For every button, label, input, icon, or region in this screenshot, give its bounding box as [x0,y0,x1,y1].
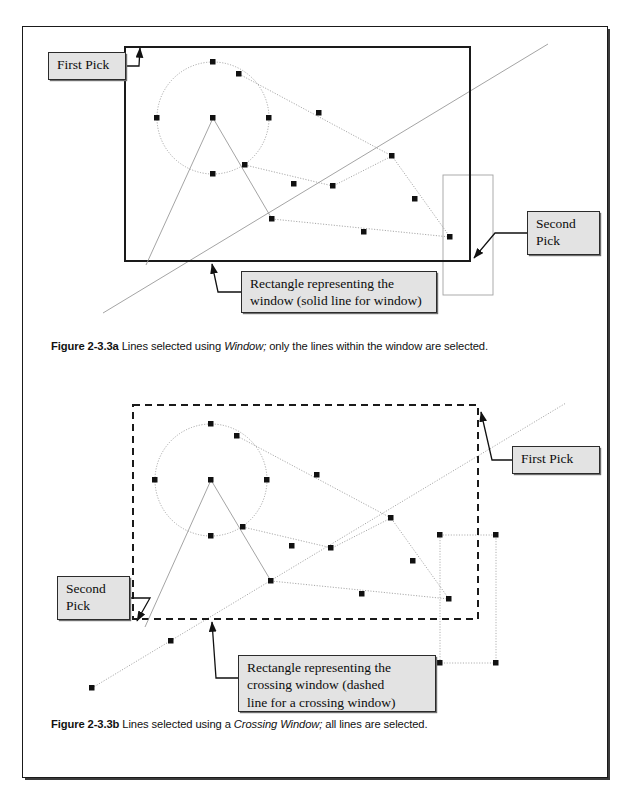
figure-caption-a-text2: only the lines within the window are sel… [266,340,488,352]
callout-second-pick-a: Second Pick [527,211,600,255]
callout-window-note-a: Rectangle representing the window (solid… [241,271,437,313]
polyline-middle-b [243,518,391,548]
figure-caption-a-emphasis: Window; [224,340,266,352]
callout-first-pick-a: First Pick [48,52,126,80]
triangle-entity-a [146,118,272,265]
leader-window-note-a [212,264,241,292]
callout-second-pick-b: Second Pick [57,576,130,620]
polyline-upper-b [237,436,449,599]
figure-caption-b-label: Figure 2-3.3b [51,718,119,730]
leader-first-pick-a [126,48,140,66]
grip-handles-b [89,421,499,691]
triangle-entity-b [145,480,271,627]
figure-b-geometry [89,403,566,691]
figure-caption-a: Figure 2-3.3a Lines selected using Windo… [51,340,488,352]
callout-first-pick-b: First Pick [512,446,600,474]
figure-caption-b-emphasis: Crossing Window; [234,718,322,730]
figure-caption-a-label: Figure 2-3.3a [51,340,119,352]
leader-first-pick-b [481,412,512,460]
figure-caption-a-text1: Lines selected using [119,340,224,352]
figure-caption-b-text2: all lines are selected. [322,718,427,730]
callout-window-note-b: Rectangle representing the crossing wind… [238,655,436,712]
selection-window-a [125,47,470,261]
polyline-middle-a [245,156,392,186]
leader-window-note-b [212,622,238,678]
figure-page: First Pick Second Pick Rectangle represe… [0,0,633,806]
figure-caption-b: Figure 2-3.3b Lines selected using a Cro… [51,718,428,730]
selection-window-b [133,405,478,619]
leader-second-pick-a [474,233,527,258]
figure-caption-b-text1: Lines selected using a [119,718,234,730]
polyline-upper-a [239,74,450,237]
